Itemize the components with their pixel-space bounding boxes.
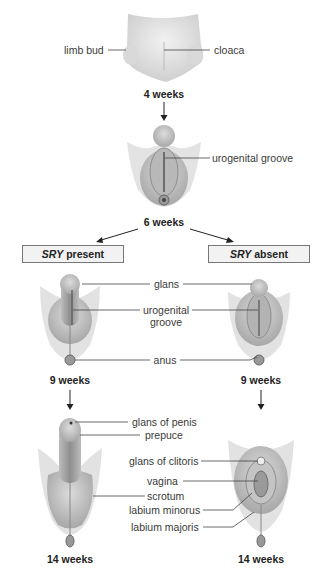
- label-limb-bud: limb bud: [64, 44, 104, 56]
- time-14-weeks-male: 14 weeks: [40, 553, 100, 565]
- embryo-4-weeks: [108, 14, 210, 82]
- time-9-weeks-male: 9 weeks: [44, 374, 96, 386]
- box-sry-absent: SRY absent: [208, 245, 310, 263]
- gene-status: absent: [254, 248, 288, 260]
- time-9-weeks-female: 9 weeks: [235, 374, 287, 386]
- label-cloaca: cloaca: [214, 44, 244, 56]
- embryo-9-weeks-male: [40, 274, 100, 365]
- label-prepuce: prepuce: [145, 429, 183, 441]
- time-14-weeks-female: 14 weeks: [231, 553, 291, 565]
- time-6-weeks: 6 weeks: [139, 216, 189, 228]
- label-urogenital-line2: groove: [140, 316, 192, 328]
- label-urogenital-line1: urogenital: [140, 304, 192, 316]
- label-labium-majoris: labium majoris: [131, 521, 199, 533]
- label-scrotum: scrotum: [147, 490, 184, 502]
- label-glans-of-penis: glans of penis: [132, 416, 197, 428]
- embryo-6-weeks: [127, 125, 210, 207]
- label-labium-minorus: labium minorus: [129, 504, 200, 516]
- gene-name: SRY: [230, 248, 251, 260]
- label-glans-of-clitoris: glans of clitoris: [129, 455, 198, 467]
- embryo-9-weeks-female: [228, 279, 290, 365]
- label-glans: glans: [150, 278, 183, 290]
- label-urogenital-groove-6wk: urogenital groove: [212, 152, 293, 164]
- gene-status: present: [66, 248, 104, 260]
- gene-name: SRY: [42, 248, 63, 260]
- label-anus: anus: [150, 354, 180, 366]
- label-vagina: vagina: [147, 475, 178, 487]
- time-4-weeks: 4 weeks: [139, 88, 189, 100]
- box-sry-present: SRY present: [22, 245, 124, 263]
- embryo-14-weeks-female: [228, 440, 294, 547]
- embryo-14-weeks-male: [38, 418, 102, 547]
